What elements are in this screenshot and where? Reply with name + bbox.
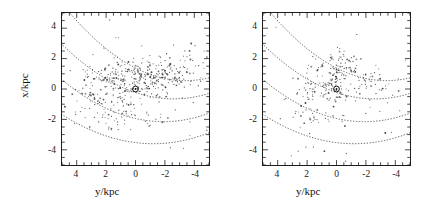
left-x-axis-title: y/kpc [95,186,119,197]
right-panel [262,12,411,166]
left-x-tick-label: 0 [121,170,151,180]
right-y-tick-label: 4 [231,22,257,32]
left-x-tick-label: -4 [180,170,210,180]
right-panel-frame [262,12,411,166]
right-y-tick-label: -4 [231,146,257,156]
left-y-tick-label: 4 [30,22,56,32]
left-y-axis-title: x/kpc [19,56,30,116]
left-panel-plot-area [62,13,209,165]
left-panel [61,12,210,166]
left-y-tick-label: 2 [30,53,56,63]
left-y-tick-label: -4 [30,146,56,156]
right-x-tick-label: 4 [262,170,292,180]
right-y-tick-label: 0 [231,84,257,94]
right-y-tick-label: 2 [231,53,257,63]
right-panel-plot-area [263,13,410,165]
figure-root: y/kpc y/kpc x/kpc 420-2-4420-2-4420-2-44… [0,0,427,204]
right-x-axis-title: y/kpc [296,186,320,197]
left-y-tick-label: 0 [30,84,56,94]
right-x-tick-label: -4 [381,170,411,180]
left-x-tick-label: 4 [61,170,91,180]
left-x-tick-label: -2 [150,170,180,180]
right-y-tick-label: -2 [231,115,257,125]
left-y-tick-label: -2 [30,115,56,125]
left-x-tick-label: 2 [91,170,121,180]
right-x-tick-label: -2 [351,170,381,180]
right-x-tick-label: 0 [322,170,352,180]
right-x-tick-label: 2 [292,170,322,180]
left-panel-frame [61,12,210,166]
